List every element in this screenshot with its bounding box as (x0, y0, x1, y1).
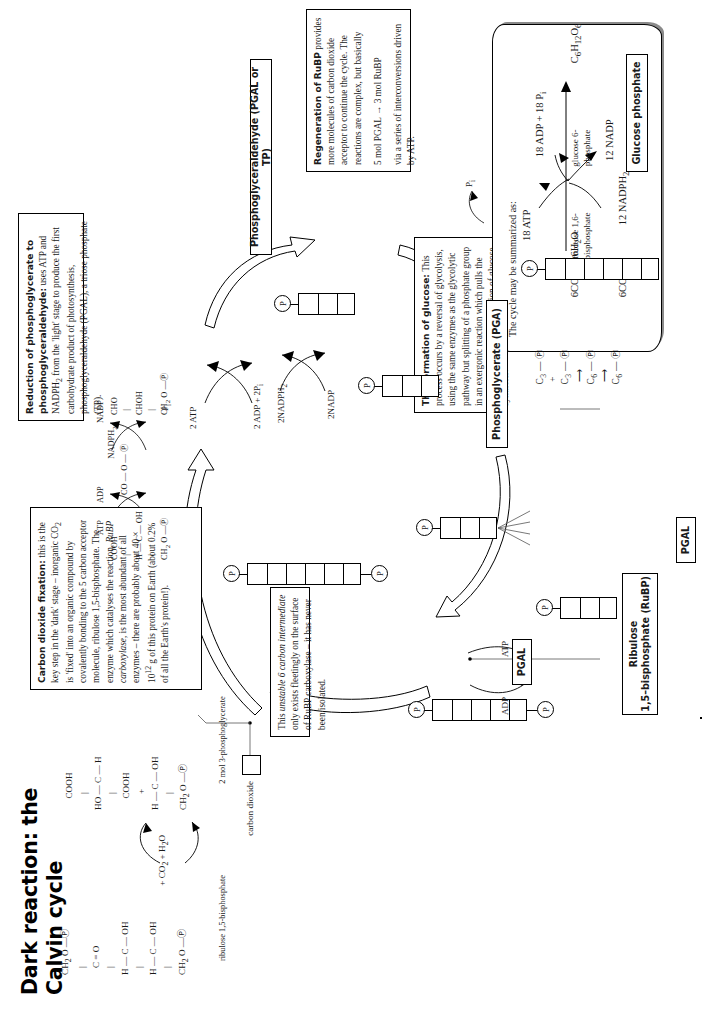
regeneration-heading: Regeneration of RuBP (313, 52, 323, 165)
reduction-heading-1: Reduction of phosphoglycerate to (25, 240, 35, 414)
fructose-line1: fructose 1,6- (570, 213, 580, 258)
box-regeneration: Regeneration of RuBP provides more molec… (306, 9, 411, 172)
regeneration-footer: via a series of interconversions driven … (392, 16, 418, 165)
cofactor-adp-reduction: ADP (96, 486, 107, 503)
co2-water-1: + CO (157, 866, 167, 886)
phosphate-pgal-lower: P (416, 519, 433, 536)
nadph-reduction-sub: 2 (110, 426, 118, 430)
chain-pgal-regen (560, 597, 617, 619)
cofactor-2nadph-sub: 2 (280, 384, 289, 388)
cofactor-pi-glucose: Pi (464, 180, 478, 187)
label-box-glucose-phosphate: Glucose phosphate (626, 54, 648, 172)
phosphate-pga: P (358, 377, 375, 394)
cofactor-2nadp: 2NADP (326, 390, 338, 419)
glucose6-line2: phosphate (582, 130, 592, 167)
chain-rubp-stem-bottom (527, 710, 537, 711)
label-box-pgal-full: Phosphoglyceraldehyde (PGAL or TP) (250, 59, 272, 255)
phosphate-rubp-bottom: P (537, 701, 554, 718)
cofactor-atp-cycle: ATP (500, 641, 512, 657)
molecule-pga-small: COOH | H — C — OH | CH2 O —Ⓟ (96, 511, 186, 560)
chain-pga (382, 375, 439, 397)
glyc-c6b-sub: 6 (615, 374, 624, 378)
glyc-p3: Ⓟ (586, 349, 596, 358)
label-rubp-line1: Ribulose (628, 621, 640, 667)
co2-fixation-heading: Carbon dioxide fixation: (37, 560, 47, 683)
caption-3-phosphoglycerate: 2 mol 3-phosphoglycerate (218, 660, 229, 820)
co2-water-3: O (157, 835, 167, 842)
cofactor-2nadph: 2NADPH2 (276, 384, 290, 423)
cofactor-2atp: 2 ATP (188, 407, 200, 429)
glyc-c6a-sub: 6 (589, 374, 598, 378)
cofactor-2adp-2pi-label: 2 ADP + 2P (252, 386, 262, 429)
label-box-pgal-2: PGAL (512, 639, 532, 685)
box-unstable-intermediate: This unstable 6 carbon intermediate only… (270, 587, 310, 737)
glucose6-line1: glucose 6- (570, 129, 580, 166)
cofactor-2nadph-label: 2NADPH (276, 387, 286, 423)
chain-glucose-6c (545, 258, 659, 280)
unstable-text-2: only exists fleetingly on the surface of… (290, 598, 326, 730)
cofactor-pi-glucose-sub: i (468, 180, 477, 182)
glyc-c6b: C (611, 378, 621, 385)
cofactor-2adp-2pi: 2 ADP + 2Pi (252, 384, 266, 429)
reduction-sub: 2 (55, 378, 64, 382)
cofactor-pi-reduction: Pi (150, 404, 183, 419)
co2-fixation-sup-12: 12 (144, 666, 153, 674)
box-reduction: Reduction of phosphoglycerate to phospho… (18, 213, 84, 421)
chain-rubp-body (432, 699, 527, 721)
unstable-italic: unstable 6 carbon intermediate (277, 595, 287, 711)
glycolysis-reversal-row: C3 — Ⓟ + C3 — Ⓟ ⟶ C6 — Ⓟ ⟶ C6 — Ⓟ (523, 349, 636, 395)
glyc-p4: Ⓟ (611, 349, 621, 358)
molecule-3pg-structure: COOH | HO — C — H | COOH + H — C — OH | … (48, 756, 207, 810)
glyc-p2: Ⓟ (560, 349, 570, 358)
label-box-rubp: Ribulose 1,5–bisphosphate (RuBP) (622, 573, 658, 715)
co2-water-sub1: 2 (160, 862, 169, 866)
glyc-c3b: C (560, 378, 570, 385)
nadph-reduction-label: NADPH (107, 430, 116, 459)
unstable-text-1: This (277, 711, 287, 730)
glyc-c3a-sub: 3 (539, 374, 548, 378)
chain-unstable-6c (247, 563, 361, 585)
molecule-rubp-structure: CH2 O —Ⓟ | C = O | H — C — OH | H — C — … (44, 921, 206, 975)
cofactor-nadph-reduction: NADPH2 (96, 426, 129, 467)
molecule-co2-water: + CO2 + H2O (145, 835, 181, 895)
glyc-plus: + (548, 376, 558, 382)
cofactor-pi-glucose-label: P (464, 182, 474, 187)
phosphate-unstable-bottom: P (371, 565, 388, 582)
caption-glucose-6-phosphate: glucose 6- phosphate (570, 113, 593, 183)
label-box-pga: Phosphoglycerate (PGA) (486, 300, 508, 448)
reduction-heading-2: phosphoglyceraldehyde: (38, 288, 48, 414)
co2-water-2: + H (157, 845, 167, 861)
glyc-c3b-sub: 3 (564, 374, 573, 378)
fructose-line2: bisphosphate (582, 213, 592, 260)
phosphate-pgal-regen: P (536, 599, 553, 616)
phosphate-glucose: P (521, 260, 538, 277)
glyc-p1: Ⓟ (535, 349, 545, 358)
pi-reduction-label: P (161, 406, 170, 411)
co2-water-sub2: 2 (160, 841, 169, 845)
phosphate-unstable-top: P (223, 565, 240, 582)
co2-fixation-sub-1: 2 (54, 522, 63, 526)
caption-fructose-bisphosphate: fructose 1,6- bisphosphate (570, 199, 593, 273)
cofactor-atp-reduction: ATP (96, 520, 107, 535)
label-carbon-dioxide: carbon dioxide (245, 781, 257, 867)
phosphate-rubp-top: P (408, 701, 425, 718)
label-rubp-line2: 1,5–bisphosphate (RuBP) (640, 576, 652, 712)
label-box-pgal-1: PGAL (676, 517, 696, 563)
phosphate-pgal-right: P (274, 295, 291, 312)
caption-ribulose-bisphosphate: ribulose 1,5-bisphosphate (218, 843, 229, 993)
glyc-c6a: C (586, 378, 596, 385)
regeneration-equation: 5 mol PGAL → 3 mol RuBP (372, 16, 385, 165)
glyc-c3a: C (535, 378, 545, 385)
chain-pgal-right (298, 293, 355, 315)
cofactor-adp-cycle: ADP (500, 697, 512, 715)
pi-reduction-sub: i (164, 404, 172, 406)
chain-pgal-lower (440, 517, 497, 539)
cofactor-2adp-2pi-sub: i (256, 384, 265, 386)
cofactor-nadp-reduction: NADP (96, 400, 107, 423)
chain-unstable-stem-bottom (361, 574, 371, 575)
carbon-dioxide-unit (242, 755, 261, 775)
